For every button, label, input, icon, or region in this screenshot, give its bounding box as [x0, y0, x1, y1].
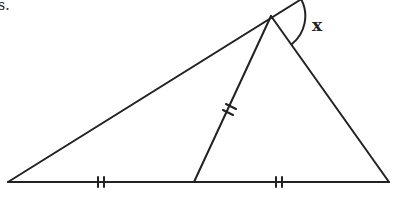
right-side	[271, 16, 389, 182]
angle-arc	[292, 0, 305, 44]
caption-fragment: s.	[0, 0, 10, 13]
angle-label-x: x	[312, 15, 323, 35]
triangle-diagram: s. x	[0, 0, 406, 216]
left-side-extended	[8, 0, 300, 182]
